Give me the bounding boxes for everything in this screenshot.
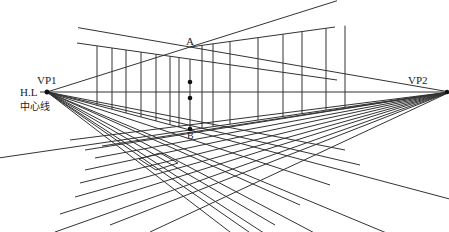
upper-left-edge bbox=[77, 43, 337, 80]
floor-vp1-ray-4 bbox=[47, 92, 300, 232]
vp2-label: VP2 bbox=[408, 75, 428, 86]
vp1-label: VP1 bbox=[37, 75, 57, 86]
point-a-label: A bbox=[186, 36, 194, 47]
center-line-label: 中心线 bbox=[20, 102, 50, 112]
horizon-label: H.L bbox=[20, 87, 37, 98]
floor-vp2-ray-5 bbox=[60, 92, 449, 214]
floor-vp1-extra-3 bbox=[47, 92, 300, 205]
center-dot-0 bbox=[188, 80, 193, 85]
perspective-drawing bbox=[0, 0, 449, 232]
center-dot-1 bbox=[188, 96, 193, 101]
vp2-dot bbox=[445, 90, 449, 94]
vp1-dot bbox=[45, 90, 50, 95]
floor-vp2-extra-3 bbox=[150, 92, 449, 232]
perspective-diagram: VP1 H.L 中心线 VP2 A B bbox=[0, 0, 449, 232]
floor-vp2-ray-6 bbox=[55, 92, 449, 232]
floor-vp2-extra-1 bbox=[85, 92, 449, 150]
upper-right-edge bbox=[190, 27, 335, 47]
point-b-label: B bbox=[187, 131, 194, 141]
